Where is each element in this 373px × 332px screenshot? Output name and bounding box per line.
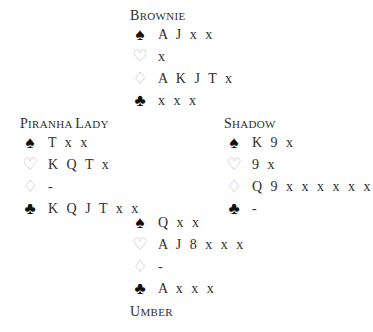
north-clubs-row: ♣x x x xyxy=(130,90,234,112)
diamond-icon: ♢ xyxy=(130,256,150,278)
east-spades-row: ♠K 9 x xyxy=(224,132,373,154)
club-icon: ♣ xyxy=(130,278,150,300)
north-player-name: Brownie xyxy=(130,8,234,24)
spade-icon: ♠ xyxy=(224,132,244,154)
spade-icon: ♠ xyxy=(130,24,150,46)
heart-icon: ♡ xyxy=(130,234,150,256)
west-spades: T x x xyxy=(48,135,90,151)
heart-icon: ♡ xyxy=(224,154,244,176)
north-hand: Brownie ♠A J x x ♡x ♢A K J T x ♣x x x xyxy=(130,8,234,112)
east-clubs-row: ♣- xyxy=(224,198,373,220)
west-hearts-row: ♡K Q T x xyxy=(20,154,141,176)
north-diamonds-row: ♢A K J T x xyxy=(130,68,234,90)
heart-icon: ♡ xyxy=(130,46,150,68)
south-hearts: A J 8 x x x xyxy=(158,237,246,253)
south-hearts-row: ♡A J 8 x x x xyxy=(130,234,246,256)
east-diamonds-row: ♢Q 9 x x x x x x xyxy=(224,176,373,198)
east-clubs: - xyxy=(252,201,259,217)
west-hearts: K Q T x xyxy=(48,157,111,173)
east-hand: Shadow ♠K 9 x ♡9 x ♢Q 9 x x x x x x ♣- xyxy=(224,116,373,220)
heart-icon: ♡ xyxy=(20,154,40,176)
north-hearts-row: ♡x xyxy=(130,46,234,68)
south-hand: ♠Q x x ♡A J 8 x x x ♢- ♣A x x x Umber xyxy=(130,212,246,320)
west-spades-row: ♠T x x xyxy=(20,132,141,154)
club-icon: ♣ xyxy=(20,198,40,220)
south-diamonds: - xyxy=(158,259,165,275)
west-clubs-row: ♣K Q J T x x xyxy=(20,198,141,220)
west-diamonds: - xyxy=(48,179,55,195)
south-player-name: Umber xyxy=(130,304,246,320)
south-spades-row: ♠Q x x xyxy=(130,212,246,234)
diamond-icon: ♢ xyxy=(130,68,150,90)
west-hand: Piranha Lady ♠T x x ♡K Q T x ♢- ♣K Q J T… xyxy=(20,116,141,220)
west-player-name: Piranha Lady xyxy=(20,116,141,132)
spade-icon: ♠ xyxy=(20,132,40,154)
north-clubs: x x x xyxy=(158,93,199,109)
east-hearts-row: ♡9 x xyxy=(224,154,373,176)
club-icon: ♣ xyxy=(130,90,150,112)
north-diamonds: A K J T x xyxy=(158,71,234,87)
east-hearts: 9 x xyxy=(252,157,277,173)
south-spades: Q x x xyxy=(158,215,202,231)
east-diamonds: Q 9 x x x x x x xyxy=(252,179,373,195)
west-clubs: K Q J T x x xyxy=(48,201,141,217)
east-player-name: Shadow xyxy=(224,116,373,132)
south-clubs: A x x x xyxy=(158,281,216,297)
north-spades: A J x x xyxy=(158,27,215,43)
spade-icon: ♠ xyxy=(130,212,150,234)
south-diamonds-row: ♢- xyxy=(130,256,246,278)
north-spades-row: ♠A J x x xyxy=(130,24,234,46)
north-hearts: x xyxy=(158,49,168,65)
west-diamonds-row: ♢- xyxy=(20,176,141,198)
diamond-icon: ♢ xyxy=(20,176,40,198)
diamond-icon: ♢ xyxy=(224,176,244,198)
south-clubs-row: ♣A x x x xyxy=(130,278,246,300)
east-spades: K 9 x xyxy=(252,135,296,151)
